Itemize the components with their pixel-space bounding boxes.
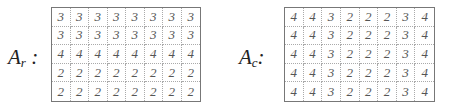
matrix-cell: 4 — [285, 64, 304, 83]
matrix-cell: 2 — [378, 82, 397, 101]
matrix-cell: 2 — [378, 27, 397, 46]
matrix-cell: 2 — [71, 64, 90, 83]
matrix-cell: 2 — [126, 64, 145, 83]
matrix-cell: 4 — [89, 45, 108, 64]
matrix-cell: 2 — [360, 82, 379, 101]
matrix-cell: 3 — [397, 27, 416, 46]
matrix-cell: 3 — [52, 8, 71, 27]
matrix-cell: 3 — [182, 8, 201, 27]
matrix-cell: 4 — [71, 45, 90, 64]
matrix-label-a-c: Ac: — [239, 45, 265, 71]
matrix-cell: 4 — [285, 27, 304, 46]
matrix-cell: 4 — [304, 8, 323, 27]
matrix-cell: 2 — [341, 27, 360, 46]
matrix-cell: 3 — [108, 27, 127, 46]
matrix-cell: 2 — [52, 82, 71, 101]
matrix-cell: 3 — [163, 8, 182, 27]
matrix-cell: 3 — [108, 8, 127, 27]
matrix-cell: 2 — [89, 64, 108, 83]
matrix-cell: 2 — [341, 8, 360, 27]
matrix-cell: 2 — [341, 64, 360, 83]
matrix-cell: 4 — [415, 27, 434, 46]
matrix-cell: 2 — [108, 64, 127, 83]
matrix-cell: 2 — [182, 82, 201, 101]
matrix-cell: 2 — [341, 82, 360, 101]
matrix-cell: 2 — [163, 64, 182, 83]
matrix-cell: 2 — [360, 27, 379, 46]
matrix-cell: 2 — [126, 82, 145, 101]
matrix-cell: 4 — [415, 8, 434, 27]
matrix-cell: 4 — [108, 45, 127, 64]
label-base: A — [239, 45, 252, 69]
matrix-grid-a-c: 4432223444322234443222344432223444322234 — [284, 7, 435, 102]
matrix-cell: 2 — [378, 64, 397, 83]
matrix-cell: 2 — [378, 8, 397, 27]
matrix-cell: 3 — [71, 8, 90, 27]
matrix-cell: 3 — [397, 82, 416, 101]
matrix-cell: 2 — [71, 82, 90, 101]
matrix-cell: 4 — [304, 45, 323, 64]
matrix-cell: 3 — [182, 27, 201, 46]
matrix-cell: 2 — [145, 82, 164, 101]
matrix-cell: 2 — [89, 82, 108, 101]
matrix-cell: 4 — [304, 82, 323, 101]
matrix-cell: 3 — [89, 8, 108, 27]
matrix-cell: 3 — [145, 8, 164, 27]
matrix-cell: 4 — [126, 45, 145, 64]
matrix-cell: 4 — [415, 82, 434, 101]
matrix-cell: 2 — [360, 8, 379, 27]
matrix-cell: 2 — [182, 64, 201, 83]
matrix-cell: 3 — [397, 45, 416, 64]
matrix-label-a-r: Ar : — [8, 45, 38, 71]
matrix-cell: 3 — [71, 27, 90, 46]
label-base: A — [8, 45, 21, 69]
matrix-cell: 3 — [397, 64, 416, 83]
matrix-cell: 4 — [415, 45, 434, 64]
matrix-cell: 4 — [304, 64, 323, 83]
matrix-cell: 3 — [126, 8, 145, 27]
matrix-cell: 4 — [415, 64, 434, 83]
matrix-cell: 2 — [378, 45, 397, 64]
matrix-cell: 2 — [341, 45, 360, 64]
label-suffix: : — [26, 45, 38, 69]
label-suffix: : — [258, 45, 265, 69]
matrix-grid-a-r: 3333333333333333444444442222222222222222 — [51, 7, 201, 102]
matrix-cell: 3 — [52, 27, 71, 46]
matrix-cell: 3 — [163, 27, 182, 46]
matrix-cell: 4 — [163, 45, 182, 64]
matrix-cell: 3 — [145, 27, 164, 46]
matrix-cell: 3 — [126, 27, 145, 46]
matrix-cell: 2 — [108, 82, 127, 101]
matrix-cell: 4 — [145, 45, 164, 64]
matrix-cell: 3 — [397, 8, 416, 27]
matrix-cell: 4 — [304, 27, 323, 46]
matrix-cell: 4 — [285, 45, 304, 64]
matrix-cell: 2 — [52, 64, 71, 83]
matrix-cell: 3 — [322, 82, 341, 101]
matrix-cell: 2 — [360, 45, 379, 64]
matrix-cell: 4 — [182, 45, 201, 64]
matrix-cell: 2 — [163, 82, 182, 101]
matrix-cell: 4 — [285, 82, 304, 101]
matrix-cell: 3 — [322, 64, 341, 83]
matrix-cell: 3 — [89, 27, 108, 46]
matrix-cell: 4 — [52, 45, 71, 64]
matrix-cell: 3 — [322, 27, 341, 46]
matrix-cell: 4 — [285, 8, 304, 27]
matrix-cell: 3 — [322, 45, 341, 64]
matrix-cell: 3 — [322, 8, 341, 27]
matrix-cell: 2 — [360, 64, 379, 83]
matrix-cell: 2 — [145, 64, 164, 83]
